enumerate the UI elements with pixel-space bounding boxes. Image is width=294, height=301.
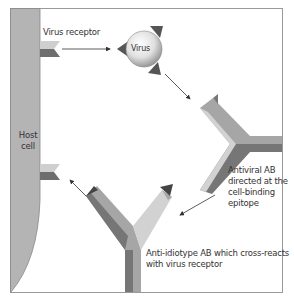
anti-idiotype-label-line: with virus receptor: [146, 259, 289, 270]
antiviral-ab-label: Antiviral AB directed at the cell-bindin…: [228, 165, 288, 209]
antiviral-ab-label-line: cell-binding: [228, 187, 288, 198]
host-cell-label-line1: Host: [17, 130, 39, 141]
anti-idiotype-ab-label: Anti-idiotype AB which cross-reacts with…: [146, 248, 289, 270]
host-cell-label-line2: cell: [17, 141, 39, 152]
virus-receptor-label: Virus receptor: [43, 27, 100, 38]
antiviral-ab-label-line: directed at the: [228, 176, 288, 187]
anti-idiotype-label-line: Anti-idiotype AB which cross-reacts: [146, 248, 289, 259]
virus-label: Virus: [131, 43, 150, 54]
antiviral-ab-label-line: Antiviral AB: [228, 165, 288, 176]
antiviral-ab-label-line: epitope: [228, 198, 288, 209]
host-cell-label: Host cell: [17, 130, 39, 152]
